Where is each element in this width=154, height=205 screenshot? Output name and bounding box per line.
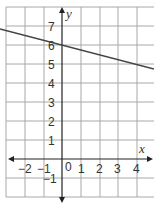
svg-text:4: 4: [48, 77, 55, 91]
svg-text:4: 4: [133, 162, 140, 176]
y-axis-label: y: [64, 6, 72, 21]
svg-text:−1: −1: [37, 162, 51, 176]
svg-text:5: 5: [48, 58, 55, 72]
svg-text:3: 3: [114, 162, 121, 176]
x-tick-labels: −2 −1 0 1 2 3 4: [18, 160, 140, 176]
svg-text:6: 6: [48, 39, 55, 53]
y-axis-down-arrow-icon: [59, 197, 65, 203]
coordinate-plane: y x 7 6 5 4 3 2 1 −1 −2 −1 0 1 2 3 4: [0, 0, 154, 205]
svg-text:2: 2: [96, 162, 103, 176]
svg-text:7: 7: [48, 20, 55, 34]
svg-text:1: 1: [78, 162, 85, 176]
svg-text:1: 1: [48, 134, 55, 148]
y-axis-up-arrow-icon: [59, 7, 65, 13]
svg-text:0: 0: [65, 160, 72, 174]
svg-text:2: 2: [48, 115, 55, 129]
x-axis-label: x: [138, 141, 145, 156]
plotted-line: [0, 29, 154, 69]
svg-text:3: 3: [48, 96, 55, 110]
x-axis-left-arrow-icon: [8, 156, 14, 162]
svg-text:−2: −2: [18, 162, 32, 176]
x-axis-right-arrow-icon: [147, 156, 153, 162]
